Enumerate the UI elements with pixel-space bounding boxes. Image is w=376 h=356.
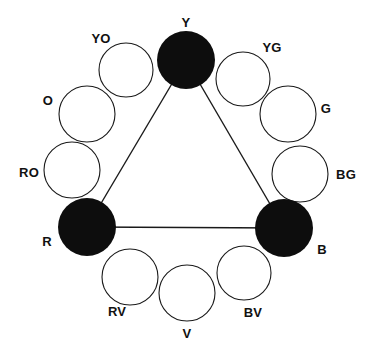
swatch-label-green: G (321, 102, 331, 115)
color-swatch-orange[interactable] (59, 86, 115, 142)
color-swatch-yellow[interactable] (157, 31, 215, 89)
swatch-label-yellow-orange: YO (91, 32, 110, 45)
swatch-label-red-orange: RO (19, 166, 39, 179)
color-swatch-red[interactable] (58, 198, 116, 256)
swatch-label-yellow-green: YG (262, 41, 281, 54)
color-wheel-diagram: YYGGBGBBVVRVRROOYO (0, 0, 376, 356)
color-swatch-violet[interactable] (159, 265, 215, 321)
swatch-label-violet: V (183, 327, 192, 340)
swatch-label-blue-violet: BV (244, 306, 262, 319)
color-swatch-red-orange[interactable] (44, 142, 100, 198)
color-swatch-blue[interactable] (255, 199, 313, 257)
swatch-label-red-violet: RV (108, 305, 126, 318)
color-swatch-green[interactable] (260, 86, 316, 142)
swatch-circle-group (44, 31, 328, 321)
wheel-canvas (0, 0, 376, 356)
color-swatch-blue-violet[interactable] (217, 246, 271, 300)
swatch-label-yellow: Y (182, 16, 191, 29)
color-swatch-red-violet[interactable] (102, 249, 158, 305)
swatch-label-orange: O (43, 94, 53, 107)
swatch-label-red: R (42, 235, 52, 248)
swatch-label-blue: B (317, 243, 327, 256)
swatch-label-blue-green: BG (336, 168, 356, 181)
color-swatch-yellow-orange[interactable] (99, 43, 153, 97)
triad-edge-r-b (87, 227, 284, 228)
color-swatch-yellow-green[interactable] (216, 52, 270, 106)
color-swatch-blue-green[interactable] (272, 146, 328, 202)
